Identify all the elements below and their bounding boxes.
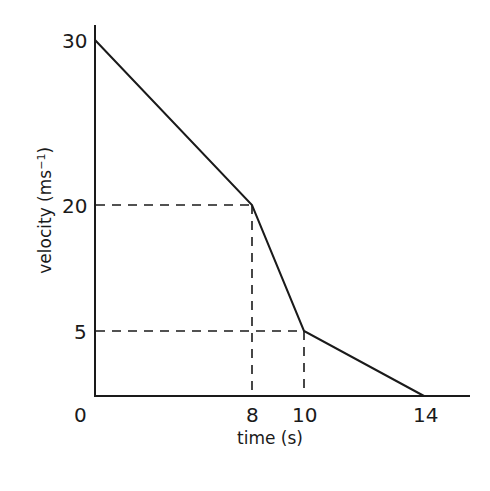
x-tick-8: 8: [246, 405, 259, 425]
y-tick-30: 30: [62, 31, 87, 51]
x-tick-10: 10: [292, 405, 317, 425]
x-tick-14: 14: [413, 405, 438, 425]
y-tick-20: 20: [62, 196, 87, 216]
y-axis-label: velocity (ms−1): [35, 125, 56, 295]
guide-lines: [96, 205, 304, 396]
x-axis-label: time (s): [210, 428, 330, 448]
y-tick-5: 5: [74, 322, 87, 342]
velocity-line: [95, 40, 424, 396]
x-tick-0: 0: [74, 405, 87, 425]
